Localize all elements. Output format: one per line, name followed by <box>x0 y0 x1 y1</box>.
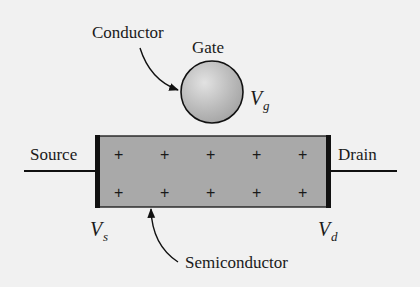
charge-plus: + <box>206 146 215 163</box>
source-contact <box>95 135 100 208</box>
charge-plus: + <box>160 184 169 201</box>
gate-label: Gate <box>192 38 224 57</box>
conductor-arrow <box>140 48 178 90</box>
drain-voltage-subscript: d <box>331 229 338 244</box>
mosfet-diagram: + + + + + + + + + + Conductor Gate Sourc… <box>0 0 420 287</box>
charge-plus: + <box>298 146 307 163</box>
charge-plus: + <box>206 184 215 201</box>
charge-plus: + <box>160 146 169 163</box>
gate-conductor-sphere <box>181 61 243 123</box>
source-label: Source <box>30 145 77 164</box>
semiconductor-arrow <box>151 209 178 262</box>
gate-voltage: V g <box>250 87 270 113</box>
drain-contact <box>326 135 331 208</box>
source-voltage-subscript: s <box>103 229 108 244</box>
conductor-label: Conductor <box>92 23 164 42</box>
source-voltage: V s <box>90 218 108 244</box>
drain-label: Drain <box>338 145 377 164</box>
charge-plus: + <box>114 184 123 201</box>
drain-voltage: V d <box>318 218 338 244</box>
semiconductor-label: Semiconductor <box>185 253 288 272</box>
charge-plus: + <box>252 146 261 163</box>
gate-voltage-subscript: g <box>263 98 270 113</box>
charge-plus: + <box>114 146 123 163</box>
charge-plus: + <box>252 184 261 201</box>
charge-plus: + <box>298 184 307 201</box>
